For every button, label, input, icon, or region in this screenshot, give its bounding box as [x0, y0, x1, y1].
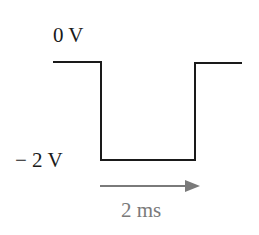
duration-arrow-head-icon: [185, 180, 200, 192]
waveform-line: [53, 62, 242, 160]
high-level-label: 0 V: [53, 25, 84, 46]
low-level-label: − 2 V: [15, 150, 63, 171]
duration-label: 2 ms: [121, 200, 161, 221]
